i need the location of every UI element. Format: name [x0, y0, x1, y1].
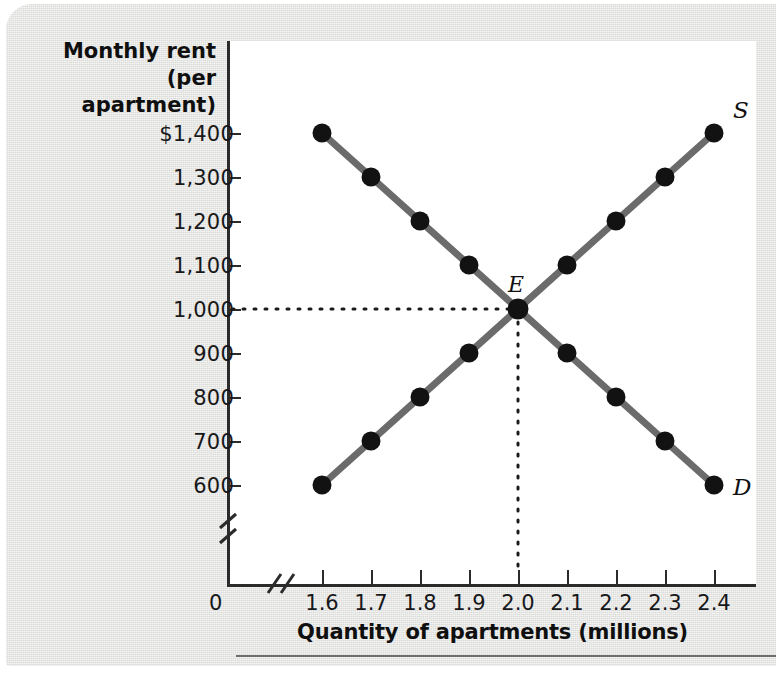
y-tick-label-1400: $1,400: [159, 122, 234, 146]
x-tick-label-2-2: 2.2: [591, 591, 641, 615]
x-tick-label-1-7: 1.7: [346, 591, 396, 615]
x-tick-1-8: [420, 570, 422, 585]
x-tick-1-9: [469, 570, 471, 585]
plot-area: [229, 41, 756, 586]
equilibrium-point-label: E: [508, 272, 524, 297]
x-tick-2-3: [665, 570, 667, 585]
x-tick-2-2: [616, 570, 618, 585]
x-tick-label-2-0: 2.0: [493, 591, 543, 615]
y-tick-label-1300: 1,300: [173, 166, 234, 190]
y-tick-label-700: 700: [193, 430, 234, 454]
x-tick-2-0: [518, 570, 520, 585]
x-tick-1-6: [322, 570, 324, 585]
y-axis-title-line-1: Monthly rent: [48, 38, 216, 65]
x-tick-label-1-6: 1.6: [297, 591, 347, 615]
figure-bottom-divider: [236, 655, 776, 657]
x-tick-2-4: [714, 570, 716, 585]
y-tick-label-1000: 1,000: [173, 298, 234, 322]
x-axis-line: [227, 584, 756, 587]
y-tick-label-1200: 1,200: [173, 210, 234, 234]
x-axis-title: Quantity of apartments (millions): [229, 620, 756, 644]
x-tick-label-2-3: 2.3: [640, 591, 690, 615]
y-axis-title-line-2: (per apartment): [48, 65, 216, 119]
y-tick-label-800: 800: [193, 386, 234, 410]
y-tick-label-1100: 1,100: [173, 254, 234, 278]
x-tick-2-1: [567, 570, 569, 585]
x-tick-label-2-4: 2.4: [689, 591, 739, 615]
economics-supply-demand-figure: Monthly rent (per apartment) $1,400 1,30…: [0, 0, 776, 678]
y-tick-label-900: 900: [193, 342, 234, 366]
y-axis-title: Monthly rent (per apartment): [48, 38, 216, 119]
x-tick-label-1-9: 1.9: [444, 591, 494, 615]
demand-curve-label: D: [733, 474, 751, 500]
origin-label: 0: [209, 591, 222, 615]
y-tick-label-600: 600: [193, 474, 234, 498]
x-tick-label-1-8: 1.8: [395, 591, 445, 615]
supply-curve-label: S: [733, 97, 749, 123]
x-tick-1-7: [371, 570, 373, 585]
x-tick-label-2-1: 2.1: [542, 591, 592, 615]
